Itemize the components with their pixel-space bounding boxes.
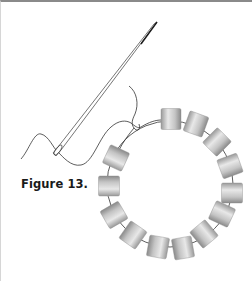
figure-caption: Figure 13. [21, 177, 88, 191]
beading-illustration [1, 2, 252, 281]
bead [208, 200, 235, 227]
bead [203, 128, 232, 157]
bead [171, 236, 194, 260]
bead-ring [99, 109, 244, 261]
needle-icon [53, 22, 157, 156]
bead [183, 111, 209, 138]
bead [99, 176, 120, 196]
bead [190, 220, 219, 249]
bead [222, 183, 243, 203]
bead [102, 144, 129, 171]
figure-frame: Figure 13. [0, 0, 252, 281]
bead [100, 201, 128, 229]
bead [161, 109, 181, 130]
thread [21, 86, 161, 165]
bead [217, 153, 244, 179]
bead [119, 221, 147, 250]
bead [146, 235, 169, 259]
